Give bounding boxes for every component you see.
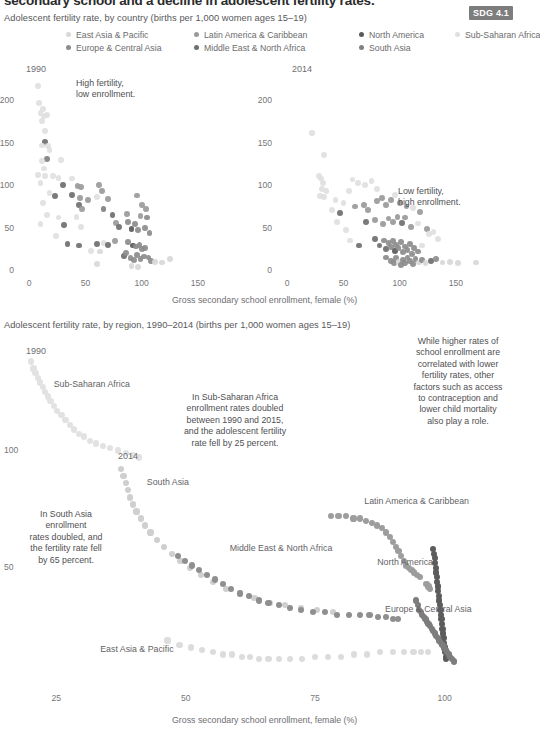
x-axis-tick-label: 50 (176, 693, 196, 703)
scatter-point (320, 180, 326, 186)
scatter-point (324, 188, 330, 194)
scatter-point (346, 612, 352, 618)
chart1-panel-2014-label: 2014 (292, 64, 312, 74)
scatter-point (369, 178, 375, 184)
scatter-point (35, 83, 41, 89)
scatter-point (135, 264, 141, 270)
scatter-point (52, 193, 58, 199)
scatter-point (175, 553, 181, 559)
page-title: secondary school and a decline in adoles… (4, 0, 404, 8)
scatter-point (107, 445, 113, 451)
x-axis-tick-label: 100 (435, 693, 455, 703)
scatter-point (44, 112, 50, 118)
scatter-point (435, 236, 441, 242)
chart1-x-axis-title: Gross secondary school enrollment, femal… (172, 295, 357, 305)
scatter-point (419, 243, 425, 249)
scatter-point (159, 260, 165, 266)
x-axis-tick-label: 25 (46, 693, 66, 703)
scatter-point (127, 494, 133, 500)
scatter-point (143, 206, 149, 212)
scatter-point (94, 241, 100, 247)
sdg-badge: SDG 4.1 (469, 6, 513, 20)
scatter-point (455, 260, 461, 266)
scatter-point (116, 224, 122, 230)
scatter-point (335, 513, 341, 519)
chart2-annotation-side-note: While higher rates ofschool enrollment a… (402, 336, 514, 427)
scatter-point (101, 206, 107, 212)
scatter-point (334, 219, 340, 225)
scatter-point (88, 248, 94, 254)
scatter-point (164, 637, 170, 643)
scatter-point (247, 654, 253, 660)
scatter-point (447, 259, 453, 265)
y-axis-tick-label: 150 (256, 138, 272, 148)
legend-dot-icon (194, 32, 199, 37)
scatter-point (383, 202, 389, 208)
scatter-point (265, 656, 271, 662)
scatter-point (39, 158, 45, 164)
scatter-point (337, 210, 343, 216)
scatter-point (351, 651, 357, 657)
scatter-point (36, 100, 42, 106)
scatter-point (58, 157, 64, 163)
scatter-point (390, 649, 396, 655)
scatter-point (133, 508, 139, 514)
scatter-point (100, 443, 106, 449)
x-axis-tick-label: 0 (19, 278, 39, 288)
scatter-point (78, 184, 84, 190)
chart2-annotation-sub-saharan-africa: In Sub-Saharan Africaenrollment rates do… (170, 392, 300, 449)
scatter-point (212, 576, 218, 582)
scatter-point (105, 196, 111, 202)
scatter-point (372, 217, 378, 223)
scatter-point (383, 614, 389, 620)
legend-item-north-america: North America (359, 30, 455, 40)
scatter-point (56, 175, 62, 181)
scatter-point (81, 433, 87, 439)
y-axis-tick-label: 200 (0, 95, 14, 105)
scatter-point (130, 501, 136, 507)
y-axis-tick-label: 0 (0, 265, 14, 275)
scatter-point (204, 572, 210, 578)
scatter-point (94, 261, 100, 267)
chart2-year-2014-label: 2014 (118, 451, 138, 461)
scatter-point (144, 215, 150, 221)
legend-label: Europe & Central Asia (76, 43, 161, 53)
x-axis-tick-label: 100 (390, 278, 410, 288)
scatter-point (199, 647, 205, 653)
scatter-point (379, 195, 385, 201)
legend-label: North America (369, 30, 424, 40)
scatter-point (28, 358, 34, 364)
scatter-point (125, 219, 131, 225)
legend-dot-icon (66, 45, 71, 50)
chart1-annotation-high-fertility: High fertility,low enrollment. (76, 78, 186, 101)
scatter-point (210, 649, 216, 655)
scatter-point (94, 194, 100, 200)
scatter-point (375, 614, 381, 620)
chart1-annotation-low-fertility: Low fertility,high enrollment. (398, 186, 508, 209)
scatter-point (276, 602, 282, 608)
scatter-point (415, 221, 421, 227)
legend-item-east-asia-pacific: East Asia & Pacific (66, 30, 194, 40)
scatter-point (53, 233, 59, 239)
scatter-point (138, 213, 144, 219)
scatter-point (473, 260, 479, 266)
y-axis-tick-label: 0 (256, 265, 272, 275)
scatter-point (388, 197, 394, 203)
scatter-point (44, 212, 50, 218)
legend-dot-icon (194, 45, 199, 50)
scatter-point (229, 651, 235, 657)
scatter-point (299, 656, 305, 662)
scatter-point (377, 243, 383, 249)
scatter-point (451, 658, 457, 664)
scatter-point (410, 649, 416, 655)
scatter-point (138, 515, 144, 521)
scatter-point (112, 238, 118, 244)
scatter-point (97, 249, 103, 255)
scatter-point (120, 473, 126, 479)
scatter-point (356, 243, 362, 249)
scatter-point (182, 558, 188, 564)
legend-item-middle-east-north-africa: Middle East & North Africa (194, 43, 359, 53)
chart1-subtitle: Adolescent fertility rate, by country (b… (4, 13, 307, 23)
x-axis-tick-label: 50 (333, 278, 353, 288)
